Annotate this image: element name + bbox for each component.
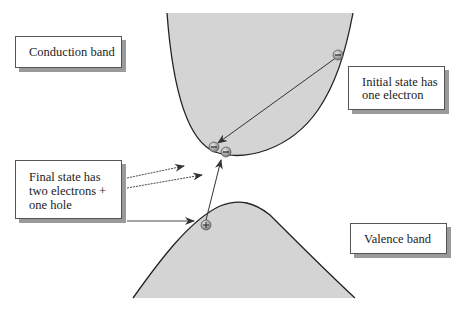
conduction-band-label: Conduction band: [15, 36, 122, 68]
initial-state-line-2: one electron: [362, 89, 444, 102]
final-state-label: Final state has two electrons + one hole: [15, 160, 122, 219]
valence-band-text: Valence band: [364, 233, 446, 246]
final-state-line-1: Final state has: [29, 170, 121, 184]
initial-state-label: Initial state has one electron: [348, 66, 445, 110]
final-electron-1: [209, 142, 219, 152]
pointer-arrow-1: [127, 166, 184, 178]
hole: [201, 220, 211, 230]
final-electron-2: [221, 147, 231, 157]
conduction-band-text: Conduction band: [29, 46, 121, 59]
valence-band-region: [133, 202, 355, 298]
pointer-arrow-2: [127, 175, 202, 188]
initial-electron: [333, 50, 343, 60]
final-state-line-3: one hole: [29, 198, 121, 212]
valence-band-label: Valence band: [350, 223, 447, 254]
final-state-line-2: two electrons +: [29, 184, 121, 198]
